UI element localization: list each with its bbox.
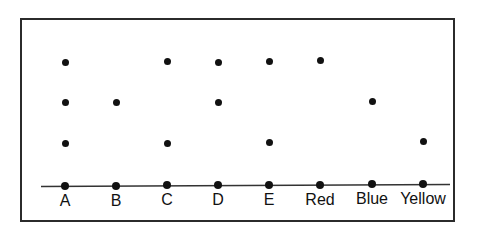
dot-d-level-3 <box>215 99 222 106</box>
dot-blue-level-1 <box>368 180 376 188</box>
tick-label-red: Red <box>305 191 334 209</box>
dot-c-level-2 <box>164 140 171 147</box>
tick-label-e: E <box>264 191 275 209</box>
dot-red-level-4 <box>317 57 324 64</box>
dot-blue-level-3 <box>369 98 376 105</box>
plot-area: A B C D <box>22 20 453 220</box>
tick-label-yellow: Yellow <box>400 190 446 208</box>
dot-yellow-level-2 <box>420 138 427 145</box>
category-axis-line <box>22 20 457 224</box>
tick-label-c: C <box>161 191 173 209</box>
dot-yellow-level-1 <box>419 180 427 188</box>
dot-a-level-2 <box>62 140 69 147</box>
dot-d-level-4 <box>215 59 222 66</box>
dot-b-level-3 <box>113 99 120 106</box>
dot-plot-screenshot: A B C D <box>0 0 477 238</box>
tick-label-b: B <box>111 192 122 210</box>
dot-b-level-1 <box>112 182 120 190</box>
dot-c-level-1 <box>163 181 171 189</box>
tick-label-a: A <box>60 192 71 210</box>
dot-e-level-1 <box>265 181 273 189</box>
dot-e-level-4 <box>266 58 273 65</box>
plot-frame-border: A B C D <box>20 18 455 222</box>
tick-label-blue: Blue <box>356 190 388 208</box>
dot-a-level-4 <box>62 59 69 66</box>
dot-c-level-4 <box>164 58 171 65</box>
dot-e-level-2 <box>266 139 273 146</box>
dot-red-level-1 <box>316 181 324 189</box>
dot-a-level-3 <box>62 99 69 106</box>
tick-label-d: D <box>212 191 224 209</box>
dot-a-level-1 <box>61 182 69 190</box>
dot-d-level-1 <box>214 181 222 189</box>
